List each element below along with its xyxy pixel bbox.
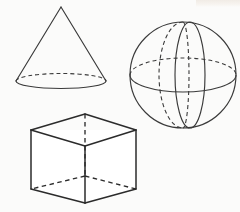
cone-base-visible-arc <box>16 81 106 89</box>
cube-shape <box>31 114 136 203</box>
cone-left-slant <box>16 7 61 81</box>
sphere-front-meridian <box>175 22 205 128</box>
cube-top-back-right-edge <box>85 114 136 130</box>
sphere-equator-visible-arc <box>130 75 236 92</box>
sphere-outline-circle <box>130 22 236 128</box>
cone-right-slant <box>61 7 106 81</box>
sphere-equator-hidden-arc <box>130 58 236 75</box>
cube-front-face-fill <box>31 130 136 203</box>
page-scan-artifact <box>196 0 240 7</box>
sphere-shape <box>130 22 236 128</box>
solids-drawing <box>0 0 240 212</box>
geometric-solids-figure <box>0 0 240 212</box>
cube-top-back-left-edge <box>31 114 85 130</box>
sphere-rear-meridian-far-side <box>183 22 189 128</box>
cone-shape <box>16 7 106 89</box>
cone-base-hidden-arc <box>16 74 106 82</box>
